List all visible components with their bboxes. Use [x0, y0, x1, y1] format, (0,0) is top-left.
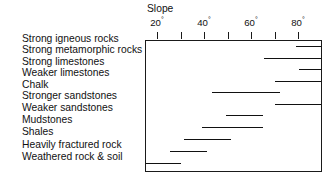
slope-range-chart: Strong igneous rocksStrong metamorphic r… — [0, 0, 334, 181]
range-bar — [202, 127, 263, 128]
axis-tick-mark — [228, 32, 229, 39]
axis-tick-mark — [204, 32, 205, 39]
range-bar — [299, 69, 322, 70]
category-label: Weathered rock & soil — [0, 151, 141, 162]
range-bar — [226, 115, 264, 116]
axis-tick-mark — [275, 32, 276, 39]
range-bar — [275, 81, 322, 82]
category-label: Weaker sandstones — [0, 102, 141, 113]
category-label-list: Strong igneous rocksStrong metamorphic r… — [0, 0, 143, 181]
range-bar — [146, 163, 181, 164]
category-label: Strong limestones — [0, 56, 141, 67]
axis-tick-mark — [298, 32, 299, 39]
range-bar — [264, 58, 323, 59]
axis-title: Slope — [147, 3, 173, 14]
plot-area — [145, 40, 322, 172]
axis-tick-mark — [181, 32, 182, 39]
range-bar — [170, 151, 208, 152]
range-bar — [212, 92, 280, 93]
category-label: Stronger sandstones — [0, 90, 141, 101]
axis-tick-mark — [251, 32, 252, 39]
axis-tick-label: 20° — [150, 16, 163, 28]
axis-tick-label: 40° — [197, 16, 210, 28]
category-label: Heavily fractured rock — [0, 139, 141, 150]
axis-tick-label: 60° — [244, 16, 257, 28]
axis-tick-mark — [157, 32, 158, 39]
category-label: Shales — [0, 126, 141, 137]
axis-tick-label: 80° — [291, 16, 304, 28]
category-label: Strong igneous rocks — [0, 33, 141, 44]
category-label: Mudstones — [0, 114, 141, 125]
category-label: Strong metamorphic rocks — [0, 44, 141, 55]
range-bar — [184, 139, 231, 140]
category-label: Weaker limestones — [0, 67, 141, 78]
range-bar — [296, 46, 322, 47]
range-bar — [275, 104, 322, 105]
category-label: Chalk — [0, 79, 141, 90]
